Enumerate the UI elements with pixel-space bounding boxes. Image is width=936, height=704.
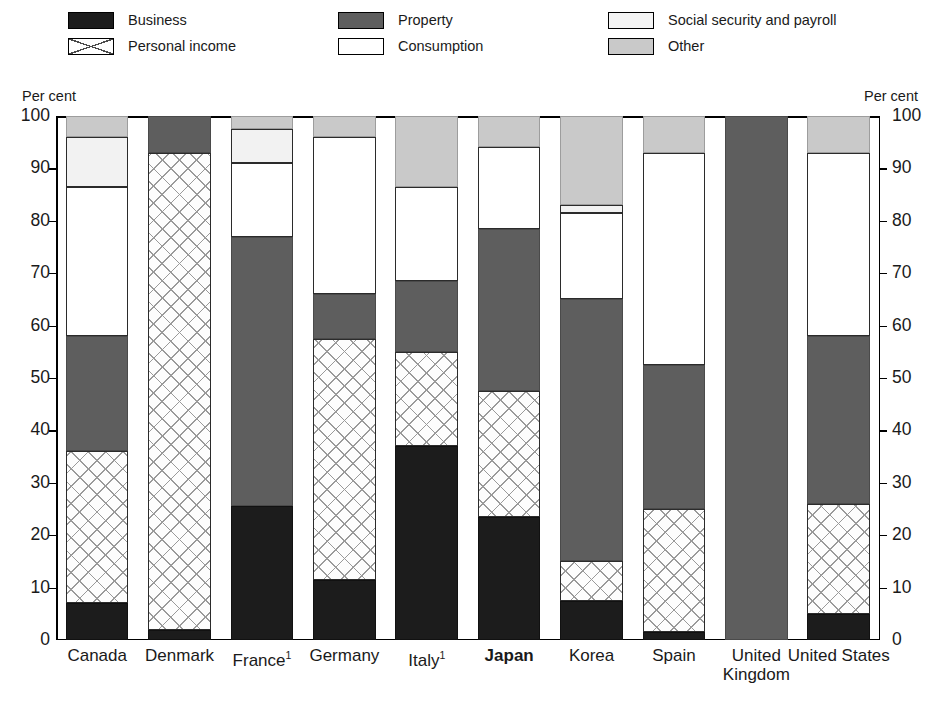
legend-label-business: Business (128, 12, 187, 29)
bar-canada[interactable] (66, 116, 129, 640)
y-axis-tick-label: 100 (892, 107, 936, 124)
bar-united-kingdom[interactable] (725, 116, 788, 640)
y-axis-tick-label: 50 (892, 369, 936, 386)
segment-social[interactable] (231, 129, 294, 163)
segment-personal[interactable] (560, 561, 623, 600)
chart-root: Business Personal income Property Consum… (0, 0, 936, 704)
legend-item-social-security: Social security and payroll (608, 8, 836, 32)
segment-property[interactable] (807, 336, 870, 504)
segment-other[interactable] (66, 116, 129, 137)
segment-business[interactable] (313, 580, 376, 640)
segment-property[interactable] (395, 281, 458, 352)
segment-business[interactable] (231, 506, 294, 640)
y-axis-tick-label: 30 (892, 474, 936, 491)
segment-consumption[interactable] (807, 153, 870, 336)
segment-personal[interactable] (148, 153, 211, 630)
y-axis-tick-label: 100 (6, 107, 50, 124)
bar-denmark[interactable] (148, 116, 211, 640)
legend-column-3: Social security and payroll Other (608, 8, 836, 60)
segment-personal[interactable] (313, 339, 376, 580)
legend-column-2: Property Consumption (338, 8, 483, 60)
segment-property[interactable] (148, 116, 211, 153)
legend-swatch-property-icon (338, 12, 384, 29)
segment-personal[interactable] (643, 509, 706, 632)
y-tick-left (49, 326, 56, 327)
y-axis-tick-label: 20 (6, 526, 50, 543)
y-axis-tick-label: 90 (892, 159, 936, 176)
segment-business[interactable] (66, 603, 129, 640)
segment-other[interactable] (231, 116, 294, 129)
legend-item-consumption: Consumption (338, 34, 483, 58)
segment-personal[interactable] (807, 504, 870, 614)
segment-business[interactable] (560, 601, 623, 640)
segment-property[interactable] (231, 237, 294, 507)
y-axis-tick-label: 80 (6, 212, 50, 229)
bar-italy[interactable] (395, 116, 458, 640)
y-tick-left (49, 588, 56, 589)
bar-korea[interactable] (560, 116, 623, 640)
legend-swatch-personal-income-icon (68, 38, 114, 55)
legend-swatch-business-icon (68, 12, 114, 29)
segment-property[interactable] (725, 116, 788, 640)
segment-consumption[interactable] (313, 137, 376, 294)
legend-swatch-consumption-icon (338, 38, 384, 55)
y-axis-tick-label: 80 (892, 212, 936, 229)
legend-swatch-social-security-icon (608, 12, 654, 29)
segment-consumption[interactable] (560, 213, 623, 299)
legend-swatch-other-icon (608, 38, 654, 55)
segment-other[interactable] (643, 116, 706, 153)
bar-germany[interactable] (313, 116, 376, 640)
segment-social[interactable] (560, 205, 623, 213)
y-tick-left (49, 168, 56, 169)
segment-property[interactable] (560, 299, 623, 561)
bar-united-states[interactable] (807, 116, 870, 640)
segment-consumption[interactable] (643, 153, 706, 365)
segment-consumption[interactable] (395, 187, 458, 281)
segment-property[interactable] (313, 294, 376, 339)
footnote-marker: 1 (439, 649, 445, 661)
segment-business[interactable] (478, 517, 541, 640)
y-tick-right (880, 588, 887, 589)
segment-business[interactable] (643, 632, 706, 640)
bar-france[interactable] (231, 116, 294, 640)
y-tick-right (880, 430, 887, 431)
y-tick-right (880, 168, 887, 169)
segment-personal[interactable] (66, 451, 129, 603)
segment-personal[interactable] (395, 352, 458, 446)
legend-label-social-security: Social security and payroll (668, 12, 836, 29)
plot-area (56, 116, 880, 640)
y-tick-left (49, 378, 56, 379)
y-axis-tick-label: 70 (6, 264, 50, 281)
y-tick-left (49, 430, 56, 431)
segment-business[interactable] (148, 630, 211, 640)
bar-spain[interactable] (643, 116, 706, 640)
legend-label-property: Property (398, 12, 453, 29)
x-axis-labels: CanadaDenmarkFrance1GermanyItaly1JapanKo… (56, 646, 880, 704)
segment-other[interactable] (807, 116, 870, 153)
y-tick-right (880, 483, 887, 484)
x-axis-label-united-states: United States (779, 646, 898, 665)
segment-personal[interactable] (478, 391, 541, 517)
x-axis-label-line2: Kingdom (697, 665, 816, 684)
y-axis-tick-label: 40 (892, 421, 936, 438)
segment-business[interactable] (807, 614, 870, 640)
y-axis-tick-label: 0 (892, 631, 936, 648)
segment-property[interactable] (66, 336, 129, 451)
legend-column-1: Business Personal income (68, 8, 236, 60)
y-axis-tick-label: 50 (6, 369, 50, 386)
segment-business[interactable] (395, 446, 458, 640)
segment-other[interactable] (313, 116, 376, 137)
y-axis-tick-label: 60 (892, 317, 936, 334)
segment-consumption[interactable] (231, 163, 294, 236)
segment-social[interactable] (66, 137, 129, 187)
segment-other[interactable] (478, 116, 541, 147)
bar-japan[interactable] (478, 116, 541, 640)
segment-property[interactable] (643, 365, 706, 509)
y-tick-left (49, 535, 56, 536)
left-axis-caption: Per cent (22, 88, 76, 104)
segment-property[interactable] (478, 229, 541, 391)
segment-other[interactable] (560, 116, 623, 205)
segment-other[interactable] (395, 116, 458, 187)
segment-consumption[interactable] (66, 187, 129, 336)
segment-consumption[interactable] (478, 147, 541, 228)
